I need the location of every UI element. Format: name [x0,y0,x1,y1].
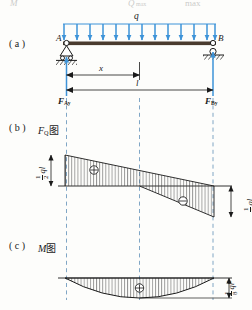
dimension-label-x: x [99,63,103,73]
panel-c-moment [58,278,232,298]
moment-sign-positive [135,284,143,292]
shear-right-num: 1 [243,207,250,212]
shear-right-den: 2 [250,207,252,212]
moment-max-value: 1 8 ql2 [215,280,239,296]
panel-b-shear [51,155,232,217]
beam [63,42,216,46]
panel-tag-a: ( a ) [9,38,25,49]
moment-max-den: 8 [231,291,239,296]
beam-figure [0,0,252,310]
distributed-load-arrows [64,24,215,40]
reaction-label-ay: FAy [58,96,70,106]
shear-left-value: 1 2 ql [26,167,50,180]
shear-right-value: 1 2 ql [234,199,252,212]
load-label-q: q [134,11,139,21]
dimension-label-l: l [136,78,139,88]
panel-c-caption: M图 [38,240,56,255]
panel-a-loading [56,24,224,96]
shear-sign-negative [179,197,187,205]
moment-max-unit: ql2 [226,280,236,289]
reaction-label-by: FBy [205,96,218,106]
shear-sign-positive [90,166,98,174]
moment-max-num: 1 [224,291,231,296]
dimension-x [67,62,140,80]
node-label-a: A [56,33,62,43]
panel-b-caption: FQ图 [38,122,59,137]
panel-tag-c: ( c ) [9,240,25,251]
shear-left-unit: ql [37,167,47,174]
node-label-b: B [218,33,224,43]
panel-tag-b: ( b ) [9,122,26,133]
shear-left-num: 1 [35,175,42,180]
shear-left-den: 2 [42,175,50,180]
shear-right-unit: ql [245,199,252,206]
